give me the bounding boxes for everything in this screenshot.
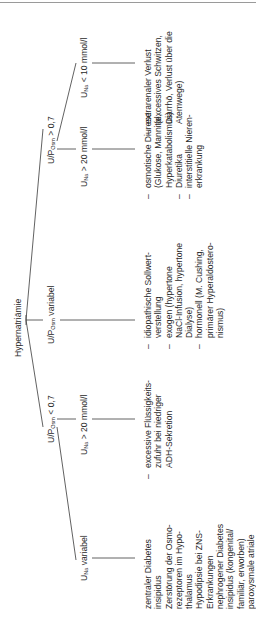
node-na-greater-20-b: UNa > 20 mmol/l [79, 127, 91, 187]
branch-osm-variabel: U/POsm variabel [46, 286, 58, 344]
node-na-less-10: UNa < 10 mmol/l [79, 38, 91, 98]
list-item: hormonell (M. Cushing, primärer Hyperald… [194, 242, 225, 349]
causes-list-na-greater-20-a: excessive Flüssigkeits- zufuhr bei niedr… [143, 380, 174, 479]
list-item: excessive Flüssigkeits- zufuhr bei niedr… [143, 380, 174, 479]
list-item: extrarenaler Verlust (excessives Schwitz… [143, 31, 184, 135]
causes-list-osm-variabel: idiopathische Sollwert- verstellung exog… [143, 242, 225, 349]
node-na-variabel: UNa variabel [79, 535, 91, 581]
decision-tree-diagram: Hypernatriämie U/POsm < 0,7 U/POsm varia… [0, 0, 256, 619]
list-item: interstitielle Nieren- erkrankung [184, 112, 205, 199]
list-item: zentraler Diabetes insipidus Zerstörung … [143, 524, 256, 609]
root-node-hypernatriaemie: Hypernatriämie [13, 299, 23, 357]
causes-list-na-variabel: zentraler Diabetes insipidus Zerstörung … [143, 524, 256, 609]
list-item: idiopathische Sollwert- verstellung [143, 242, 164, 349]
causes-list-na-less-10: extrarenaler Verlust (excessives Schwitz… [143, 31, 184, 135]
branch-osm-less-0-7: U/POsm < 0,7 [46, 395, 58, 443]
branch-osm-greater-0-7: U/POsm > 0,7 [46, 116, 58, 164]
node-na-greater-20-a: UNa > 20 mmol/l [79, 395, 91, 455]
list-item: exogen (hypertone NaCl-Infusion, hyperto… [164, 242, 195, 349]
